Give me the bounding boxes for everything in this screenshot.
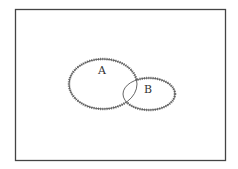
universe-border (16, 10, 226, 161)
set-b-label: B (144, 83, 152, 96)
set-a-label: A (97, 64, 107, 77)
venn-diagram: A B (0, 0, 238, 169)
